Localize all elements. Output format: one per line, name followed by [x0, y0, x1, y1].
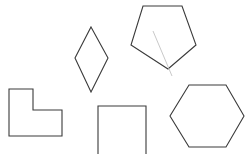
shape-pentagon	[131, 6, 196, 69]
figure-canvas	[0, 0, 250, 154]
shape-l-shape	[9, 89, 62, 136]
shape-hexagon	[170, 85, 244, 147]
shapes-drawing	[0, 0, 250, 154]
shape-pentagon-annotation-line	[153, 31, 172, 76]
shape-square	[98, 106, 146, 154]
shape-diamond	[75, 27, 108, 92]
